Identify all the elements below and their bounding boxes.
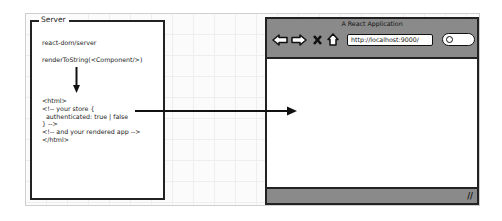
html-line: authenticated: true | false	[42, 113, 141, 121]
search-icon	[446, 36, 453, 43]
back-arrow-icon[interactable]	[272, 34, 288, 46]
html-line: <!-- your store {	[42, 105, 141, 113]
browser-titlebar: A React Application http://localhost:900…	[267, 19, 477, 59]
down-arrow-icon	[73, 67, 80, 93]
render-call-text: renderToString(<Component/>)	[42, 56, 142, 64]
html-line: </html>	[42, 136, 141, 144]
html-line: <!-- and your rendered app -->	[42, 128, 141, 136]
stop-icon[interactable]	[313, 35, 322, 45]
html-line: } -->	[42, 120, 141, 128]
server-module-text: react-dom/server	[42, 39, 96, 47]
resize-grip-icon[interactable]: //	[467, 193, 473, 201]
browser-statusbar: //	[267, 187, 477, 203]
url-bar[interactable]: http://localhost:9000/	[347, 34, 433, 46]
server-label: Server	[39, 14, 69, 26]
render-flow-arrow	[135, 106, 299, 116]
html-line: <html>	[42, 97, 141, 105]
forward-arrow-icon[interactable]	[291, 34, 307, 46]
search-box[interactable]	[442, 33, 475, 46]
arrow-head-icon	[287, 107, 297, 116]
browser-title: A React Application	[267, 20, 477, 27]
html-output-block: <html> <!-- your store { authenticated: …	[42, 97, 141, 144]
home-icon[interactable]	[327, 33, 339, 46]
